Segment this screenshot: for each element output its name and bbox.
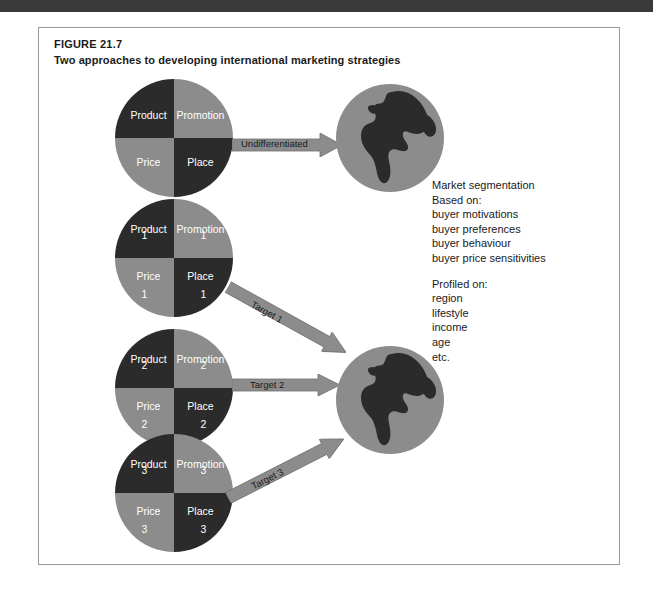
based-on-label: Based on: xyxy=(432,193,546,208)
quadrant-promotion: Promotion 2 xyxy=(174,329,233,388)
profiled-on-item: income xyxy=(432,320,546,335)
marketing-mix-3: Product 3 Promotion 3 Price 3 Place 3 xyxy=(115,434,233,552)
quadrant-promotion: Promotion 3 xyxy=(174,434,233,493)
page-top-band xyxy=(0,0,653,12)
quadrant-product: Product 2 xyxy=(115,329,174,388)
quadrant-product: Product 1 xyxy=(115,199,174,258)
profiled-on-item: region xyxy=(432,291,546,306)
quadrant-promotion: Promotion xyxy=(174,79,233,138)
based-on-item: buyer motivations xyxy=(432,207,546,222)
figure-number-label: FIGURE 21.7 xyxy=(54,38,122,50)
quadrant-price: Price xyxy=(115,138,174,197)
based-on-item: buyer behaviour xyxy=(432,236,546,251)
marketing-mix-1: Product 1 Promotion 1 Price 1 Place 1 xyxy=(115,199,233,317)
globe-landmass-icon xyxy=(336,84,444,192)
globe-landmass-icon xyxy=(336,346,444,454)
marketing-mix-undifferentiated: Product Promotion Price Place xyxy=(115,79,233,197)
quadrant-price: Price 3 xyxy=(115,493,174,552)
profiled-on-label: Profiled on: xyxy=(432,277,546,292)
quadrant-promotion: Promotion 1 xyxy=(174,199,233,258)
quadrant-place: Place 3 xyxy=(174,493,233,552)
profiled-on-item: lifestyle xyxy=(432,306,546,321)
marketing-mix-2: Product 2 Promotion 2 Price 2 Place 2 xyxy=(115,329,233,447)
based-on-item: buyer preferences xyxy=(432,222,546,237)
quadrant-place: Place 1 xyxy=(174,258,233,317)
segmentation-heading: Market segmentation xyxy=(432,178,546,193)
market-segmentation-text-block: Market segmentation Based on: buyer moti… xyxy=(432,178,546,364)
quadrant-product: Product xyxy=(115,79,174,138)
quadrant-place: Place xyxy=(174,138,233,197)
figure-title: Two approaches to developing internation… xyxy=(54,54,401,66)
quadrant-price: Price 1 xyxy=(115,258,174,317)
world-market-globe-undifferentiated xyxy=(336,84,444,192)
arrow-target-2 xyxy=(232,374,340,396)
based-on-item: buyer price sensitivities xyxy=(432,251,546,266)
profiled-on-item: etc. xyxy=(432,350,546,365)
world-market-globe-segmented xyxy=(336,346,444,454)
profiled-on-item: age xyxy=(432,335,546,350)
quadrant-product: Product 3 xyxy=(115,434,174,493)
arrow-undifferentiated xyxy=(232,133,342,157)
text-spacer xyxy=(432,266,546,277)
